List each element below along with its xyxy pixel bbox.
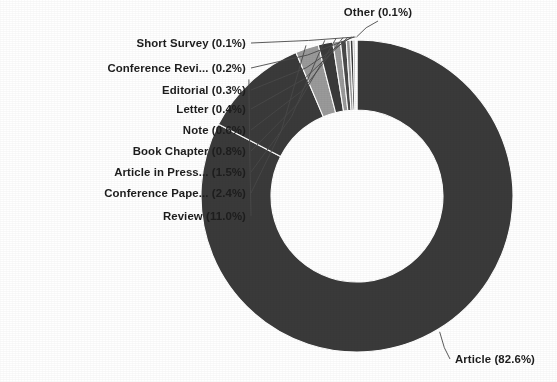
- slice-label-letter: Letter (0.4%): [176, 103, 246, 115]
- slice-label-note: Note (0.6%): [183, 124, 246, 136]
- slice-label-book-chapter: Book Chapter (0.8%): [133, 145, 246, 157]
- slice-label-article-in-press: Article in Press... (1.5%): [114, 166, 246, 178]
- pie-slice-other[interactable]: Other (0.1%): [356, 40, 357, 110]
- slice-label-other: Other (0.1%): [344, 6, 412, 18]
- slice-label-editorial: Editorial (0.3%): [162, 84, 246, 96]
- slice-label-conference-pape: Conference Pape... (2.4%): [104, 187, 246, 199]
- donut-chart: Article (82.6%)Review (11.0%)Conference …: [0, 0, 557, 382]
- slice-label-short-survey: Short Survey (0.1%): [136, 37, 246, 49]
- chart-canvas: Article (82.6%)Review (11.0%)Conference …: [0, 0, 557, 382]
- slice-label-conference-revi: Conference Revi... (0.2%): [107, 62, 246, 74]
- slice-label-review: Review (11.0%): [163, 210, 246, 222]
- slice-label-article: Article (82.6%): [455, 353, 535, 365]
